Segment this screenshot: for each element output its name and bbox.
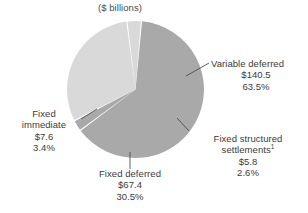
label-variable-deferred-name: Variable deferred [211, 58, 301, 69]
label-fixed-structured-value: $5.8 [196, 156, 300, 167]
label-fixed-deferred-value: $67.4 [72, 179, 188, 190]
label-fixed-immediate-name-line2: immediate [8, 119, 80, 130]
label-fixed-deferred-name: Fixed deferred [72, 168, 188, 179]
label-fixed-immediate: Fixed immediate $7.6 3.4% [8, 108, 80, 154]
footnote-marker: 1 [271, 143, 275, 150]
label-fixed-immediate-percent: 3.4% [8, 142, 80, 153]
label-fixed-deferred: Fixed deferred $67.4 30.5% [72, 168, 188, 202]
pie-chart-figure: ($ billions) Variable deferred $140.5 63… [0, 0, 308, 213]
label-fixed-deferred-percent: 30.5% [72, 191, 188, 202]
pie-slices [67, 21, 204, 158]
label-fixed-structured-percent: 2.6% [196, 167, 300, 178]
label-fixed-structured-name-line2-text: settlements [222, 144, 271, 155]
label-fixed-immediate-name-line1: Fixed [8, 108, 80, 119]
label-fixed-structured-name-line1: Fixed structured [196, 133, 300, 144]
label-fixed-immediate-value: $7.6 [8, 131, 80, 142]
label-variable-deferred-value: $140.5 [211, 69, 301, 80]
label-variable-deferred: Variable deferred $140.5 63.5% [211, 58, 301, 92]
label-fixed-structured-settlements: Fixed structured settlements1 $5.8 2.6% [196, 133, 300, 179]
label-variable-deferred-percent: 63.5% [211, 81, 301, 92]
label-fixed-structured-name-line2: settlements1 [196, 144, 300, 155]
